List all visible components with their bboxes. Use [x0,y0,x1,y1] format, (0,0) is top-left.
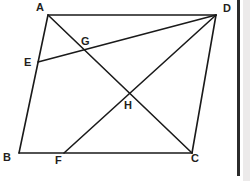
right-margin-panel [243,0,250,181]
vertex-label-E: E [24,57,31,68]
vertex-label-G: G [81,36,90,47]
diagonal-AC [48,15,192,153]
vertex-label-A: A [36,2,44,13]
vertex-label-B: B [3,152,11,163]
vertex-label-F: F [55,155,62,166]
vertex-label-H: H [124,100,132,111]
interior-segments [38,15,216,153]
vertex-label-D: D [223,3,231,14]
geometry-figure: A B C D E F G H [0,0,250,181]
vertical-rule [237,0,240,176]
side-AB [19,15,48,153]
vertex-label-C: C [191,153,199,164]
geometry-canvas [0,0,250,181]
quadrilateral-edges [19,15,216,153]
side-DC [192,15,216,153]
